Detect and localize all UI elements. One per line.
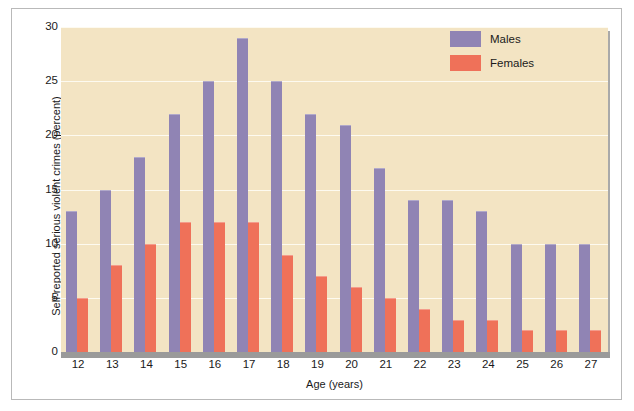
bar-group bbox=[339, 27, 365, 352]
bar-males-age-21 bbox=[374, 168, 385, 352]
bar-top-highlight bbox=[77, 298, 88, 299]
bar-group bbox=[304, 27, 330, 352]
legend-swatch-females bbox=[450, 55, 481, 71]
bar-top-highlight bbox=[579, 244, 590, 245]
bar-group bbox=[578, 27, 604, 352]
bar-top-highlight bbox=[248, 222, 259, 223]
bar-top-highlight bbox=[100, 190, 111, 191]
bar-top-highlight bbox=[169, 114, 180, 115]
y-axis-tick-label: 10 bbox=[32, 238, 58, 250]
bar-males-age-20 bbox=[340, 125, 351, 353]
bar-top-highlight bbox=[145, 244, 156, 245]
x-axis-tick-label: 17 bbox=[236, 359, 262, 371]
bar-top-highlight bbox=[487, 320, 498, 321]
bar-group bbox=[202, 27, 228, 352]
bar-males-age-15 bbox=[169, 114, 180, 352]
bar-males-age-16 bbox=[203, 81, 214, 352]
x-axis-tick-label: 25 bbox=[510, 359, 536, 371]
bar-males-age-18 bbox=[271, 81, 282, 352]
bar-group bbox=[99, 27, 125, 352]
x-axis-tick-label: 26 bbox=[544, 359, 570, 371]
bar-top-highlight bbox=[214, 222, 225, 223]
bar-top-highlight bbox=[237, 38, 248, 39]
x-axis-tick-label: 18 bbox=[270, 359, 296, 371]
bar-females-age-22 bbox=[419, 309, 430, 352]
bar-males-age-22 bbox=[408, 200, 419, 352]
y-axis-tick-label: 20 bbox=[32, 129, 58, 141]
bar-males-age-17 bbox=[237, 38, 248, 352]
bar-top-highlight bbox=[453, 320, 464, 321]
x-axis-tick-label: 27 bbox=[578, 359, 604, 371]
bar-females-age-21 bbox=[385, 298, 396, 352]
bar-top-highlight bbox=[111, 265, 122, 266]
bar-group bbox=[270, 27, 296, 352]
bar-top-highlight bbox=[134, 157, 145, 158]
bar-top-highlight bbox=[203, 81, 214, 82]
bar-females-age-27 bbox=[590, 330, 601, 352]
bar-females-age-13 bbox=[111, 265, 122, 352]
bar-group bbox=[236, 27, 262, 352]
bar-group bbox=[407, 27, 433, 352]
bar-top-highlight bbox=[180, 222, 191, 223]
bar-top-highlight bbox=[282, 255, 293, 256]
bar-top-highlight bbox=[408, 200, 419, 201]
bar-females-age-12 bbox=[77, 298, 88, 352]
bar-males-age-25 bbox=[511, 244, 522, 352]
bar-males-age-13 bbox=[100, 190, 111, 353]
x-axis-tick-label: 23 bbox=[441, 359, 467, 371]
bar-top-highlight bbox=[511, 244, 522, 245]
bar-top-highlight bbox=[305, 114, 316, 115]
bar-top-highlight bbox=[340, 125, 351, 126]
x-axis-label: Age (years) bbox=[61, 378, 608, 390]
x-axis-tick-label: 14 bbox=[133, 359, 159, 371]
x-axis-tick-label: 12 bbox=[65, 359, 91, 371]
x-axis-tick-label: 13 bbox=[99, 359, 125, 371]
bar-females-age-16 bbox=[214, 222, 225, 352]
bar-group bbox=[168, 27, 194, 352]
x-axis-tick-label: 16 bbox=[202, 359, 228, 371]
y-axis-tick-label: 0 bbox=[32, 346, 58, 358]
bar-females-age-26 bbox=[556, 330, 567, 352]
bar-top-highlight bbox=[476, 211, 487, 212]
bar-females-age-19 bbox=[316, 276, 327, 352]
bar-top-highlight bbox=[351, 287, 362, 288]
bar-females-age-23 bbox=[453, 320, 464, 353]
bar-females-age-18 bbox=[282, 255, 293, 353]
legend-label-males: Males bbox=[490, 33, 521, 45]
bar-top-highlight bbox=[556, 330, 567, 331]
bar-males-age-24 bbox=[476, 211, 487, 352]
x-axis-tick-label: 24 bbox=[475, 359, 501, 371]
x-axis-tick-label: 22 bbox=[407, 359, 433, 371]
bar-females-age-17 bbox=[248, 222, 259, 352]
bar-males-age-26 bbox=[545, 244, 556, 352]
bar-females-age-14 bbox=[145, 244, 156, 352]
bar-group bbox=[373, 27, 399, 352]
bar-females-age-20 bbox=[351, 287, 362, 352]
y-axis-tick-label: 15 bbox=[32, 184, 58, 196]
legend: MalesFemales bbox=[450, 30, 560, 78]
bar-males-age-12 bbox=[66, 211, 77, 352]
y-axis-tick-label: 25 bbox=[32, 75, 58, 87]
bar-females-age-24 bbox=[487, 320, 498, 353]
x-axis-tick-label: 19 bbox=[304, 359, 330, 371]
bar-females-age-15 bbox=[180, 222, 191, 352]
bar-top-highlight bbox=[545, 244, 556, 245]
legend-item-females: Females bbox=[450, 54, 560, 71]
y-axis-tick-label: 5 bbox=[32, 292, 58, 304]
y-axis-tick-label: 30 bbox=[32, 21, 58, 33]
y-axis-ticks: 051015202530 bbox=[26, 0, 58, 411]
bar-males-age-14 bbox=[134, 157, 145, 352]
legend-item-males: Males bbox=[450, 30, 560, 47]
bar-males-age-23 bbox=[442, 200, 453, 352]
bar-group bbox=[133, 27, 159, 352]
bar-top-highlight bbox=[271, 81, 282, 82]
bar-top-highlight bbox=[522, 330, 533, 331]
bar-top-highlight bbox=[590, 330, 601, 331]
x-axis-tick-label: 20 bbox=[339, 359, 365, 371]
bar-top-highlight bbox=[66, 211, 77, 212]
bar-top-highlight bbox=[419, 309, 430, 310]
x-axis-ticks: 12131415161718192021222324252627 bbox=[61, 359, 608, 377]
legend-label-females: Females bbox=[490, 57, 534, 69]
bar-top-highlight bbox=[442, 200, 453, 201]
x-axis-tick-label: 15 bbox=[168, 359, 194, 371]
